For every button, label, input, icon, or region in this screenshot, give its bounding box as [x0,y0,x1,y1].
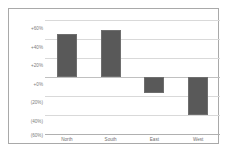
bar-west[interactable] [188,77,208,115]
category-label-south: South [89,137,133,143]
bar-slot-south [89,20,133,134]
bar-south[interactable] [101,30,121,77]
plot-area [45,20,220,134]
bar-slot-east [133,20,177,134]
y-tick-label-0: +0% [9,82,43,87]
y-tick-label-neg40: (40%) [9,119,43,124]
bar-slot-north [45,20,89,134]
bar-slot-west [176,20,220,134]
category-axis: North South East West [45,137,220,147]
category-label-north: North [45,137,89,143]
y-tick-label-20: +20% [9,63,43,68]
value-axis: +60% +40% +20% +0% (20%) (40%) (60%) [9,20,43,134]
y-tick-label-neg20: (20%) [9,100,43,105]
y-tick-label-60: +60% [9,26,43,31]
category-label-west: West [176,137,220,143]
gridline-neg60 [45,134,220,135]
bar-chart-figure: +60% +40% +20% +0% (20%) (40%) (60%) [0,0,229,155]
chart-frame: +60% +40% +20% +0% (20%) (40%) (60%) [8,8,219,144]
category-label-east: East [133,137,177,143]
bar-east[interactable] [144,77,164,93]
bar-north[interactable] [57,34,77,77]
y-tick-label-40: +40% [9,45,43,50]
y-tick-label-neg60: (60%) [9,133,43,138]
